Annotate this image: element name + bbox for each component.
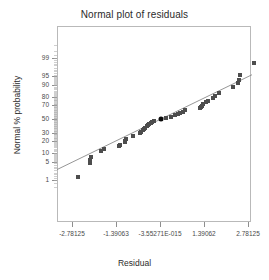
y-minor-tick — [54, 89, 57, 90]
y-tick-label: 50 — [27, 115, 49, 122]
data-point — [131, 134, 135, 138]
y-minor-tick — [54, 183, 57, 184]
y-minor-tick — [54, 153, 57, 154]
y-minor-tick — [54, 158, 57, 159]
data-point — [252, 61, 256, 65]
y-minor-tick — [54, 80, 57, 81]
x-tick-label: -3.55271E-015 — [138, 230, 181, 237]
y-minor-tick — [54, 165, 57, 166]
y-tick-label: 90 — [27, 81, 49, 88]
data-point — [217, 91, 221, 95]
y-minor-tick — [54, 83, 57, 84]
y-minor-tick — [54, 92, 57, 93]
y-tick-label: 99 — [27, 54, 49, 61]
y-minor-tick — [54, 97, 57, 98]
chart-title: Normal plot of residuals — [0, 9, 269, 20]
y-minor-tick — [54, 187, 57, 188]
y-minor-tick — [54, 68, 57, 69]
y-minor-tick — [54, 79, 57, 80]
y-minor-tick — [54, 87, 57, 88]
y-minor-tick — [54, 176, 57, 177]
y-minor-tick — [54, 151, 57, 152]
y-minor-tick — [54, 159, 57, 160]
y-minor-tick — [54, 76, 57, 77]
data-point — [238, 73, 242, 77]
y-minor-tick — [54, 100, 57, 101]
y-minor-tick — [54, 139, 57, 140]
y-minor-tick — [54, 81, 57, 82]
x-tick-mark — [204, 222, 205, 227]
data-point — [164, 116, 168, 120]
data-point — [206, 99, 210, 103]
y-tick-label: 80 — [27, 93, 49, 100]
y-minor-tick — [54, 55, 57, 56]
y-minor-tick — [54, 143, 57, 144]
x-tick-label: 2.78125 — [236, 230, 260, 237]
y-minor-tick — [54, 91, 57, 92]
data-point — [183, 108, 187, 112]
y-minor-tick — [54, 96, 57, 97]
y-tick-label: 30 — [27, 129, 49, 136]
y-minor-tick — [54, 157, 57, 158]
data-point — [102, 147, 106, 151]
y-minor-tick — [54, 88, 57, 89]
y-tick-label: 5 — [27, 158, 49, 165]
y-minor-tick — [54, 71, 57, 72]
y-minor-tick — [54, 150, 57, 151]
y-minor-tick — [54, 45, 57, 46]
x-axis-title: Residual — [0, 258, 269, 268]
data-point — [88, 161, 92, 165]
y-minor-tick — [54, 160, 57, 161]
y-tick-label: 70 — [27, 101, 49, 108]
y-minor-tick — [54, 178, 57, 179]
y-minor-tick — [54, 94, 57, 95]
y-minor-tick — [54, 93, 57, 94]
normal-probability-plot: Normal plot of residuals 999590807050302… — [0, 0, 269, 280]
y-minor-tick — [54, 141, 57, 142]
plot-frame — [57, 26, 251, 222]
y-minor-tick — [54, 73, 57, 74]
y-minor-tick — [54, 163, 57, 164]
y-minor-tick — [54, 98, 57, 99]
x-tick-label: 1.39062 — [192, 230, 216, 237]
x-tick-label: -1.39063 — [103, 230, 129, 237]
y-minor-tick — [54, 99, 57, 100]
y-minor-tick — [54, 51, 57, 52]
y-minor-tick — [54, 161, 57, 162]
y-minor-tick — [54, 180, 57, 181]
data-point — [231, 85, 235, 89]
highlighted-data-point — [158, 117, 163, 122]
y-minor-tick — [54, 58, 57, 59]
y-minor-tick — [54, 75, 57, 76]
y-minor-tick — [54, 64, 57, 65]
y-axis-title: Normal % probability — [12, 55, 22, 175]
x-tick-mark — [160, 222, 161, 227]
x-tick-mark — [72, 222, 73, 227]
y-minor-tick — [54, 156, 57, 157]
y-tick-label: 20 — [27, 137, 49, 144]
y-minor-tick — [54, 144, 57, 145]
data-point — [76, 175, 80, 179]
y-minor-tick — [54, 95, 57, 96]
y-minor-tick — [54, 77, 57, 78]
y-minor-tick — [54, 162, 57, 163]
y-minor-tick — [54, 140, 57, 141]
data-point — [118, 143, 122, 147]
y-minor-tick — [54, 65, 57, 66]
y-minor-tick — [54, 70, 57, 71]
y-minor-tick — [54, 174, 57, 175]
y-minor-tick — [54, 145, 57, 146]
y-minor-tick — [54, 167, 57, 168]
data-point — [237, 78, 241, 82]
y-minor-tick — [54, 146, 57, 147]
y-minor-tick — [54, 142, 57, 143]
data-point — [89, 155, 93, 159]
y-tick-label: 95 — [27, 72, 49, 79]
y-minor-tick — [54, 173, 57, 174]
y-minor-tick — [54, 170, 57, 171]
x-tick-mark — [116, 222, 117, 227]
x-tick-label: -2.78125 — [59, 230, 85, 237]
x-tick-mark — [248, 222, 249, 227]
y-minor-tick — [54, 147, 57, 148]
y-minor-tick — [54, 60, 57, 61]
